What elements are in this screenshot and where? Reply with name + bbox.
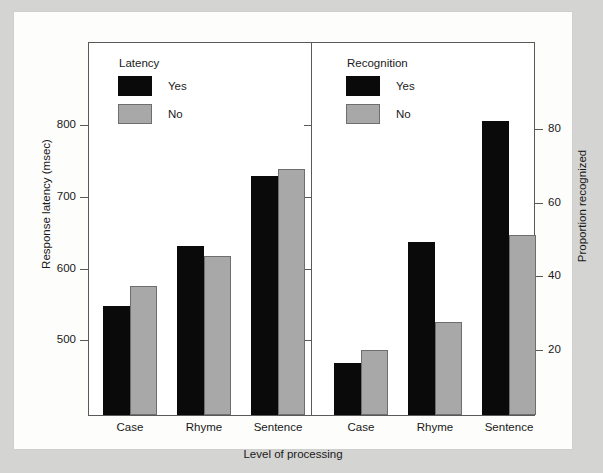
legend-recognition-label-yes: Yes	[396, 80, 415, 92]
tick-mark-divider	[304, 269, 312, 270]
bar-sentence-yes	[251, 176, 278, 415]
legend-swatch-black-icon	[346, 76, 380, 96]
screenshot-page: 800700600500 80604020 Response latency (…	[0, 0, 603, 473]
tick-label: 20	[548, 344, 561, 356]
legend-recognition-title: Recognition	[347, 57, 415, 69]
tick-mark	[80, 340, 89, 341]
legend-recognition: Recognition Yes No	[346, 57, 415, 132]
bar-rhyme-no	[204, 256, 231, 415]
bar-case-yes	[103, 306, 130, 415]
legend-latency-title: Latency	[119, 57, 187, 69]
y-axis-left-title: Response latency (msec)	[40, 114, 52, 294]
panel-divider	[311, 42, 312, 416]
tick-label: 80	[548, 123, 561, 135]
tick-mark	[534, 129, 543, 130]
x-axis-tick-label: Rhyme	[401, 421, 469, 433]
bar-sentence-no	[278, 169, 305, 415]
legend-recognition-label-no: No	[396, 108, 411, 120]
bar-sentence-no	[509, 235, 536, 415]
legend-recognition-row-yes: Yes	[346, 76, 415, 96]
bar-rhyme-yes	[408, 242, 435, 415]
bar-rhyme-yes	[177, 246, 204, 415]
x-axis-title: Level of processing	[14, 448, 572, 460]
tick-label: 40	[548, 270, 561, 282]
legend-swatch-black-icon	[118, 76, 152, 96]
bar-case-no	[130, 286, 157, 415]
x-axis-tick-label: Case	[327, 421, 395, 433]
y-axis-right-title: Proportion recognized	[576, 116, 588, 296]
tick-label: 60	[548, 197, 561, 209]
figure-card: 800700600500 80604020 Response latency (…	[14, 12, 572, 449]
tick-mark-divider	[304, 197, 312, 198]
legend-latency-row-yes: Yes	[118, 76, 187, 96]
tick-label: 800	[50, 119, 76, 131]
x-axis-tick-label: Sentence	[473, 421, 545, 433]
tick-mark	[80, 197, 89, 198]
bar-case-yes	[334, 363, 361, 415]
tick-mark	[534, 203, 543, 204]
bar-sentence-yes	[482, 121, 509, 415]
legend-latency: Latency Yes No	[118, 57, 187, 132]
x-axis-tick-label: Case	[96, 421, 164, 433]
bar-case-no	[361, 350, 388, 415]
legend-latency-row-no: No	[118, 104, 187, 124]
legend-latency-label-no: No	[168, 108, 183, 120]
x-axis-tick-label: Sentence	[242, 421, 314, 433]
tick-mark-divider	[304, 340, 312, 341]
x-axis-tick-label: Rhyme	[170, 421, 238, 433]
bar-rhyme-no	[435, 322, 462, 415]
tick-label: 700	[50, 191, 76, 203]
legend-recognition-row-no: No	[346, 104, 415, 124]
legend-swatch-gray-icon	[118, 104, 152, 124]
tick-mark	[80, 125, 89, 126]
legend-latency-label-yes: Yes	[168, 80, 187, 92]
tick-mark	[80, 269, 89, 270]
tick-mark-divider	[304, 125, 312, 126]
tick-label: 500	[50, 334, 76, 346]
legend-swatch-gray-icon	[346, 104, 380, 124]
tick-label: 600	[50, 263, 76, 275]
